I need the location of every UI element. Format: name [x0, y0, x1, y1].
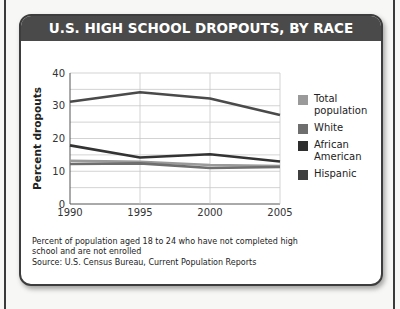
legend-swatch-african-american	[298, 141, 308, 151]
x-tick-label: 2000	[197, 207, 222, 218]
x-tick-label: 1995	[127, 207, 152, 218]
series-line-hispanic	[70, 92, 280, 115]
legend-label: White	[314, 122, 343, 133]
legend-label-line2: population	[314, 105, 367, 116]
y-tick-label: 30	[52, 100, 65, 111]
legend-swatch-white	[298, 124, 308, 134]
y-axis-label: Percent dropouts	[31, 87, 43, 190]
y-tick-label: 40	[52, 68, 65, 79]
legend-item-white: White	[298, 122, 384, 134]
legend-label-line2: American	[314, 151, 362, 162]
chart-note: Percent of population aged 18 to 24 who …	[32, 237, 302, 257]
legend-label: Hispanic	[314, 168, 357, 179]
legend-label: African	[314, 139, 349, 150]
x-tick-label: 2005	[267, 207, 292, 218]
y-tick-label: 20	[52, 133, 65, 144]
legend-item-african-american: AfricanAmerican	[298, 139, 384, 163]
chart-source: Source: U.S. Census Bureau, Current Popu…	[32, 258, 256, 267]
legend-item-hispanic: Hispanic	[298, 168, 384, 180]
y-tick-label: 10	[52, 166, 65, 177]
legend-swatch-hispanic	[298, 170, 308, 180]
x-tick-label: 1990	[57, 207, 82, 218]
legend: Totalpopulation White AfricanAmerican Hi…	[298, 93, 384, 185]
legend-item-total-population: Totalpopulation	[298, 93, 384, 117]
legend-label: Total	[314, 93, 337, 104]
legend-swatch-total	[298, 95, 308, 105]
series-line-african-american	[70, 145, 280, 161]
